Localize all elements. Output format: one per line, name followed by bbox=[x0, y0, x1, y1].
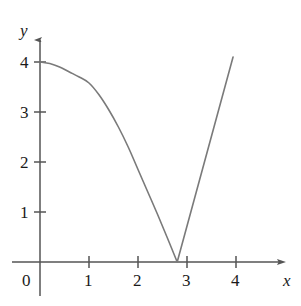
graph-figure: 4 3 2 1 0 1 2 3 4 y x bbox=[0, 0, 301, 306]
x-tick-label-1: 1 bbox=[84, 272, 93, 289]
x-tick-label-3: 3 bbox=[182, 272, 191, 289]
y-tick-label-2: 2 bbox=[20, 154, 29, 171]
x-tick-label-4: 4 bbox=[231, 272, 240, 289]
plot-area bbox=[0, 0, 301, 306]
y-tick-label-3: 3 bbox=[20, 104, 29, 121]
x-axis-label: x bbox=[283, 272, 291, 289]
x-tick-label-2: 2 bbox=[133, 272, 142, 289]
origin-label: 0 bbox=[22, 272, 31, 289]
y-tick-label-1: 1 bbox=[20, 204, 29, 221]
y-tick-label-4: 4 bbox=[20, 54, 29, 71]
data-curve bbox=[40, 57, 233, 262]
y-axis-label: y bbox=[20, 22, 28, 39]
